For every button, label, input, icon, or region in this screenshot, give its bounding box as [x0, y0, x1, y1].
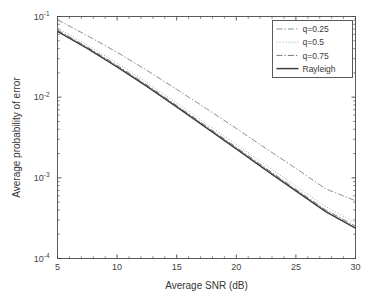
x-tick-label-15: 15 — [172, 262, 182, 272]
x-tick-label-25: 25 — [291, 262, 301, 272]
chart-plot: 5101520253010-110-210-310-4Average SNR (… — [0, 0, 368, 303]
y-tick-label--2: 10-2 — [34, 91, 50, 103]
x-tick-label-20: 20 — [231, 262, 241, 272]
y-tick-label--4: 10-4 — [34, 252, 50, 264]
x-tick-label-30: 30 — [350, 262, 360, 272]
y-tick-label--1: 10-1 — [34, 10, 50, 22]
x-axis-title: Average SNR (dB) — [165, 280, 248, 291]
y-axis-title: Average probability of error — [11, 77, 22, 198]
figure-canvas: 5101520253010-110-210-310-4Average SNR (… — [0, 0, 368, 303]
legend-label-q-0-25: q=0.25 — [303, 24, 330, 34]
y-tick-label--3: 10-3 — [34, 171, 50, 183]
x-tick-label-5: 5 — [55, 262, 60, 272]
legend-label-q-0-5: q=0.5 — [303, 37, 325, 47]
legend-label-rayleigh: Rayleigh — [303, 64, 336, 74]
x-tick-label-10: 10 — [112, 262, 122, 272]
legend-label-q-0-75: q=0.75 — [303, 51, 330, 61]
